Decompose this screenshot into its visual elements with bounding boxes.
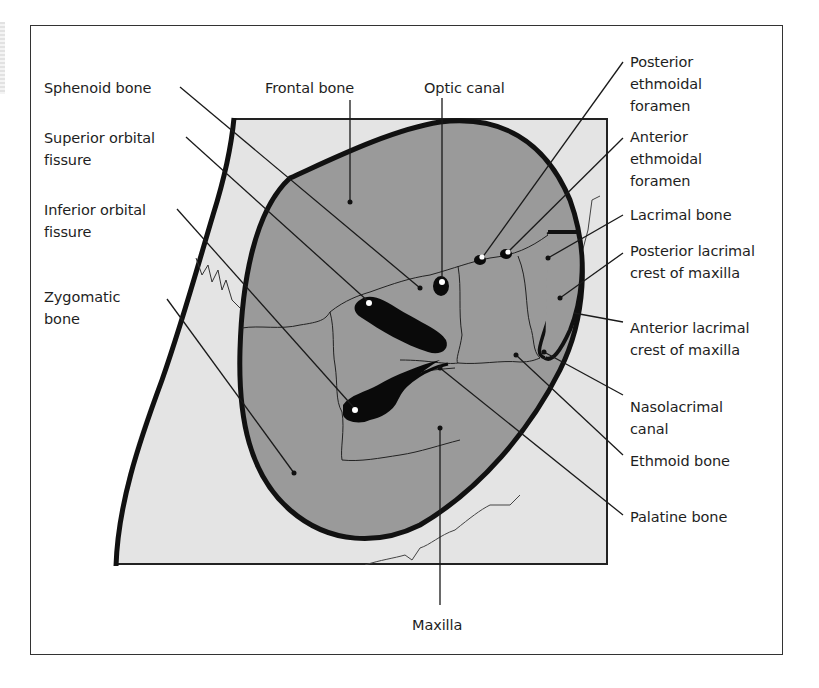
label-inferior-orbital-fissure: Inferior orbital fissure: [44, 199, 146, 243]
label-anterior-lacrimal-crest: Anterior lacrimal crest of maxilla: [630, 317, 749, 361]
optic-canal: [433, 276, 449, 296]
label-ethmoid-bone: Ethmoid bone: [630, 450, 730, 472]
label-maxilla: Maxilla: [412, 614, 462, 636]
label-superior-orbital-fissure: Superior orbital fissure: [44, 127, 155, 171]
label-palatine-bone: Palatine bone: [630, 506, 727, 528]
label-posterior-lacrimal-crest: Posterior lacrimal crest of maxilla: [630, 240, 755, 284]
label-sphenoid-bone: Sphenoid bone: [44, 77, 151, 99]
label-posterior-ethmoidal-foramen: Posterior ethmoidal foramen: [630, 51, 702, 117]
label-optic-canal: Optic canal: [424, 77, 505, 99]
label-lacrimal-bone: Lacrimal bone: [630, 204, 731, 226]
label-nasolacrimal-canal: Nasolacrimal canal: [630, 396, 723, 440]
label-zygomatic-bone: Zygomatic bone: [44, 286, 120, 330]
label-frontal-bone: Frontal bone: [265, 77, 354, 99]
label-anterior-ethmoidal-foramen: Anterior ethmoidal foramen: [630, 126, 702, 192]
